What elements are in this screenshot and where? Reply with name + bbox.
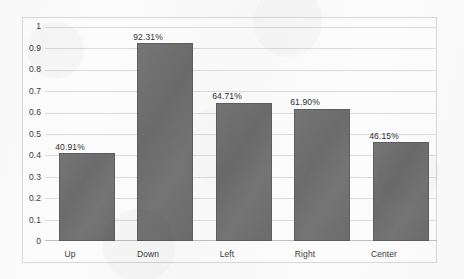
- data-label-down: 92.31%: [120, 32, 176, 42]
- y-tick-label-7: 0.7: [13, 87, 41, 96]
- y-tick-label-1: 0.1: [13, 216, 41, 225]
- x-tick-label-down: Down: [120, 249, 176, 259]
- gridline-0.8: [45, 70, 437, 71]
- y-tick-label-2: 0.2: [13, 194, 41, 203]
- x-tick-label-center: Center: [356, 249, 412, 259]
- bar-chart: 1 0.9 0.8 0.7 0.6 0.5 0.4 0.3 0.2 0.1 0: [0, 0, 464, 279]
- data-label-right: 61.90%: [277, 97, 333, 107]
- y-tick-label-6: 0.6: [13, 108, 41, 117]
- data-label-up: 40.91%: [42, 142, 98, 152]
- y-tick-label-0: 0: [13, 237, 41, 246]
- bar-right: [294, 109, 350, 241]
- bar-down: [137, 43, 193, 241]
- bar-up: [59, 153, 115, 241]
- bar-left: [216, 103, 272, 241]
- bar-center: [373, 142, 429, 241]
- y-tick-label-9: 0.9: [13, 44, 41, 53]
- y-tick-label-10: 1: [13, 22, 41, 31]
- y-tick-label-3: 0.3: [13, 173, 41, 182]
- y-tick-label-4: 0.4: [13, 151, 41, 160]
- x-tick-label-left: Left: [199, 249, 255, 259]
- gridline-0.9: [45, 48, 437, 49]
- y-tick-label-8: 0.8: [13, 65, 41, 74]
- x-tick-label-right: Right: [277, 249, 333, 259]
- gridline-1.0: [45, 27, 437, 28]
- y-tick-label-5: 0.5: [13, 130, 41, 139]
- x-tick-label-up: Up: [42, 249, 98, 259]
- data-label-center: 46.15%: [356, 131, 412, 141]
- data-label-left: 64.71%: [199, 91, 255, 101]
